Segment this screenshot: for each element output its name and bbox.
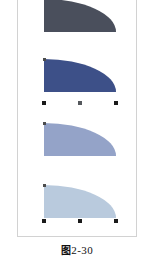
quarter-ellipse-dark-slate[interactable] [44, 0, 116, 32]
illustration-frame [17, 0, 137, 237]
handle-rotate-top-left-shape4[interactable] [43, 184, 46, 187]
handle-rotate-top-left-shape2[interactable] [43, 58, 46, 61]
shape-slot-4[interactable] [44, 185, 116, 218]
handle-bottom-left-shape2[interactable] [42, 101, 46, 105]
figure-caption-number: 2-30 [71, 244, 93, 256]
shape-slot-1[interactable] [44, 0, 116, 32]
handle-bottom-left-shape4[interactable] [42, 219, 46, 223]
quarter-ellipse-navy[interactable] [44, 59, 116, 92]
figure-caption: 图2-30 [0, 243, 154, 258]
quarter-ellipse-steel-blue[interactable] [44, 123, 116, 156]
handle-bottom-center-shape2[interactable] [78, 101, 82, 105]
shape-slot-2[interactable] [44, 59, 116, 92]
handle-bottom-center-shape4[interactable] [78, 219, 82, 223]
shape-slot-3[interactable] [44, 123, 116, 156]
figure-caption-cn: 图 [61, 245, 71, 256]
handle-bottom-right-shape4[interactable] [114, 219, 118, 223]
handle-bottom-right-shape2[interactable] [114, 101, 118, 105]
handle-rotate-top-left-shape3[interactable] [43, 122, 46, 125]
quarter-ellipse-pale-blue[interactable] [44, 185, 116, 218]
figure-root: 图2-30 [0, 0, 154, 267]
